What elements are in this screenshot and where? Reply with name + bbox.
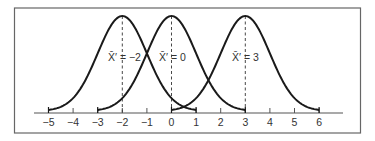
x-tick-label: 0: [169, 116, 175, 128]
normal-curves: [49, 16, 320, 113]
figure-frame: [15, 8, 361, 133]
x-tick-label: 1: [193, 116, 199, 128]
x-tick-label: 2: [218, 116, 224, 128]
x-tick-label: 4: [267, 116, 273, 128]
x-tick-label: 6: [316, 116, 322, 128]
mean-reference-lines: [122, 16, 245, 113]
label-mean-minus-2: X̄′ = −2: [108, 51, 141, 63]
x-tick-label: −2: [116, 116, 128, 128]
x-axis-ticks: −5−4−3−2−10123456: [43, 108, 323, 128]
x-tick-label: −4: [67, 116, 79, 128]
x-tick-label: −3: [92, 116, 104, 128]
x-tick-label: 3: [242, 116, 248, 128]
normal-curves-figure: −5−4−3−2−10123456 X̄′ = −2 X̄′ = 0 X̄′ =…: [0, 0, 375, 141]
x-tick-label: −5: [43, 116, 55, 128]
label-mean-3: X̄′ = 3: [232, 51, 259, 63]
label-mean-0: X̄′ = 0: [159, 51, 186, 63]
x-tick-label: −1: [141, 116, 153, 128]
curve-annotations: X̄′ = −2 X̄′ = 0 X̄′ = 3: [108, 51, 259, 63]
x-tick-label: 5: [292, 116, 298, 128]
